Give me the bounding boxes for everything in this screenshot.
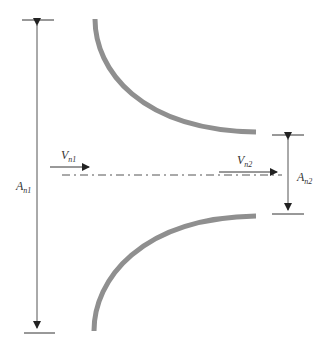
outlet-area-label: An2: [296, 170, 312, 186]
inlet-velocity-label: Vn1: [61, 148, 76, 164]
inlet-area-dimension: [22, 20, 55, 333]
upper-nozzle-wall: [95, 19, 256, 132]
outlet-velocity-label: Vn2: [237, 153, 252, 169]
nozzle-diagram: An1 Vn1 Vn2 An2: [0, 0, 325, 351]
inlet-area-label: An1: [15, 179, 31, 195]
lower-nozzle-wall: [94, 216, 256, 331]
